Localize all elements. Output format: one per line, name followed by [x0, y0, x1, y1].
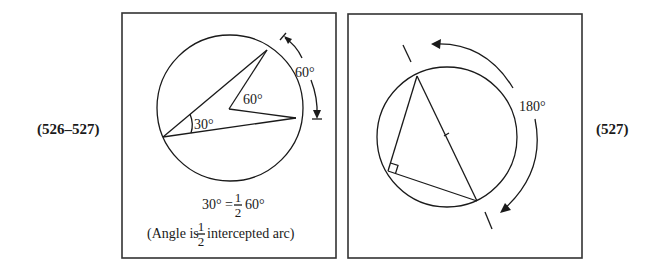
caption: (Angle is 1 2 intercepted arc) [147, 219, 295, 249]
caption-prefix: (Angle is [147, 226, 199, 242]
triangle-side-left [388, 76, 417, 171]
arrowhead-icon [313, 110, 321, 119]
formula: 30° = 1 2 60° [202, 190, 265, 220]
angle-arc-mark [190, 114, 192, 133]
arrowhead-icon [431, 39, 441, 49]
panel-inscribed-angle: 60° 60° 30° 30° = 1 2 60° (Angle is 1 2 … [122, 13, 336, 258]
caption-denominator: 2 [198, 234, 205, 249]
panel-semicircle-angle: 180° [348, 14, 582, 258]
formula-equals: = [225, 197, 233, 212]
diameter [417, 76, 477, 201]
ref-label-left: (526–527) [37, 121, 100, 138]
formula-rhs: 60° [245, 197, 265, 212]
formula-numerator: 1 [235, 190, 242, 205]
extension-dash-top [403, 45, 411, 62]
inscribed-angle-label: 30° [194, 117, 214, 132]
radius-lower [229, 109, 296, 118]
arc-arrow-lower [503, 119, 537, 210]
arc-label: 60° [295, 65, 315, 80]
extension-dash-bottom [485, 212, 492, 229]
triangle-side-bottom [388, 171, 477, 201]
arc-label: 180° [519, 99, 546, 114]
diagram-canvas: 60° 60° 30° 30° = 1 2 60° (Angle is 1 2 … [0, 0, 659, 273]
panel-border [122, 13, 336, 258]
formula-lhs: 30° [202, 197, 222, 212]
arc-arrow-upper [435, 44, 513, 88]
central-angle-label: 60° [243, 92, 263, 107]
panel-border [348, 14, 582, 258]
caption-suffix: intercepted arc) [207, 226, 295, 242]
ref-label-right: (527) [596, 121, 629, 138]
caption-numerator: 1 [198, 219, 205, 234]
formula-denominator: 2 [235, 205, 242, 220]
